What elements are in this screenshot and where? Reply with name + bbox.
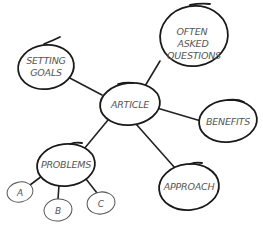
node-article-label: ARTICLE <box>110 99 149 110</box>
edge-problems-b <box>58 185 59 199</box>
node-a-label: A <box>16 188 23 198</box>
node-faq-label-2: ASKED <box>176 38 208 49</box>
edge-article-setting-goals <box>66 76 102 95</box>
node-faq-label-3: QUESTIONS <box>167 50 221 61</box>
node-benefits: BENEFITS <box>197 97 259 145</box>
node-setting-goals-label-1: SETTING <box>26 55 66 66</box>
edge-article-approach <box>136 124 175 168</box>
node-faq-label-1: OFTEN <box>177 26 208 37</box>
node-b: B <box>43 197 74 223</box>
node-a: A <box>5 180 35 205</box>
edge-problems-c <box>86 179 97 193</box>
edge-article-benefits <box>157 108 201 121</box>
node-c: C <box>85 190 116 217</box>
node-b-label: B <box>55 206 61 216</box>
sketch-stroke <box>190 4 210 5</box>
node-c-label: C <box>98 199 105 209</box>
edge-article-problems <box>84 120 108 149</box>
node-setting-goals-label-2: GOALS <box>30 67 62 78</box>
node-benefits-label: BENEFITS <box>206 116 250 127</box>
node-setting-goals: SETTING GOALS <box>15 37 77 93</box>
node-approach: APPROACH <box>157 161 221 213</box>
node-problems-label: PROBLEMS <box>41 159 91 170</box>
node-faq: OFTEN ASKED QUESTIONS <box>155 1 232 72</box>
edge-article-faq <box>145 61 160 86</box>
sketch-stroke <box>44 37 60 44</box>
mind-map-diagram: SETTING GOALS OFTEN ASKED QUESTIONS ARTI… <box>0 0 263 228</box>
node-approach-label: APPROACH <box>163 181 215 192</box>
